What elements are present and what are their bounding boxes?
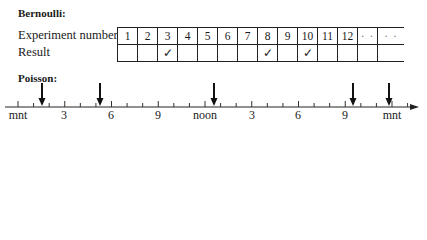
event-arrow-icon	[350, 98, 357, 106]
axis-tick-label: 6	[295, 108, 301, 123]
event-arrow-icon	[386, 98, 393, 106]
event-arrow-icon	[39, 98, 46, 106]
event-arrow-icon	[211, 98, 218, 106]
axis-tick-label: mnt	[383, 108, 402, 123]
axis-tick-label: 3	[249, 108, 255, 123]
axis-tick-label: 6	[108, 108, 114, 123]
axis-tick-label: 9	[342, 108, 348, 123]
axis-tick-label: 9	[155, 108, 161, 123]
axis-arrowhead-icon	[410, 104, 419, 110]
axis-tick-label: mnt	[9, 108, 28, 123]
event-arrow-icon	[97, 98, 104, 106]
axis-tick-label: 3	[61, 108, 67, 123]
axis-tick-label: noon	[193, 108, 217, 123]
